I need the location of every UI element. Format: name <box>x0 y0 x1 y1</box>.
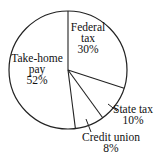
slice-value: 8% <box>103 142 119 154</box>
pie-chart: Federaltax30%State tax10%Credit union8%T… <box>0 0 162 163</box>
slice-label-credit-union: Credit union8% <box>82 131 140 154</box>
pie-chart-svg: Federaltax30%State tax10%Credit union8%T… <box>0 0 162 163</box>
slice-label-state-tax: State tax10% <box>113 103 153 126</box>
slice-value: 30% <box>77 43 99 55</box>
slice-value: 52% <box>26 74 48 86</box>
slice-value: 10% <box>122 114 144 126</box>
